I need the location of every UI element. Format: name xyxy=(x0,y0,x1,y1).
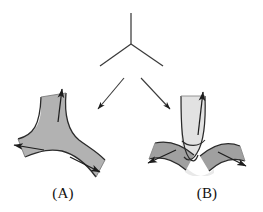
panel-a-graphic: (A) xyxy=(14,89,105,202)
arrow-to-panel-a xyxy=(98,78,124,109)
figure-canvas: (A) xyxy=(0,0,263,212)
panel-b-band-right-fill xyxy=(200,144,245,171)
trivalent-vertex-graphic xyxy=(100,13,163,66)
figure-container: (A) xyxy=(0,0,263,212)
vertex-right-edge xyxy=(131,44,163,66)
transition-arrows xyxy=(98,78,170,109)
panel-a-label: (A) xyxy=(52,185,73,202)
panel-a-surface-fill xyxy=(18,93,105,177)
arrow-to-panel-b xyxy=(141,78,170,109)
panel-b-graphic: (B) xyxy=(148,92,246,202)
panel-b-label: (B) xyxy=(197,185,218,202)
vertex-left-edge xyxy=(100,44,131,66)
